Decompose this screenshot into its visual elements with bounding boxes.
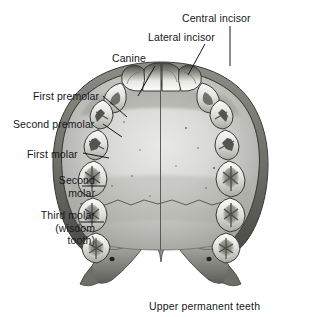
label-canine: Canine	[112, 52, 146, 65]
anatomy-figure: Central incisorLateral incisorCanineFirs…	[0, 0, 321, 317]
figure-caption: Upper permanent teeth	[149, 300, 260, 312]
tooth-lateral-incisor-left	[178, 66, 201, 92]
label-first-premolar: First premolar	[33, 90, 99, 103]
label-lateral-incisor: Lateral incisor	[148, 31, 215, 44]
label-third-molar: Third molar (wisdom tooth)	[8, 209, 95, 247]
label-central-incisor: Central incisor	[182, 12, 251, 25]
tooth-lateral-incisor-right	[122, 66, 145, 92]
label-first-molar: First molar	[27, 148, 78, 161]
label-second-premolar: Second premolar	[13, 118, 94, 131]
label-second-molar: Second molar	[22, 174, 95, 199]
